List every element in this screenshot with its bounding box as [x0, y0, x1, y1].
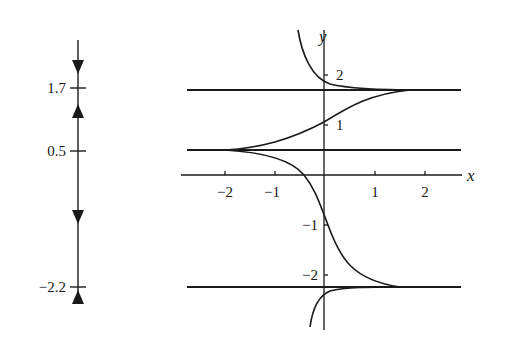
phase-line-and-solution-graph-figure: 1.7 0.5 −2.2 x y −2 −1 1 2 2 1 −1 −2	[0, 0, 506, 346]
graph-axes	[181, 30, 462, 330]
x-tick-label: −2	[217, 184, 233, 200]
x-tick-label: 1	[371, 184, 379, 200]
y-tick-label: 1	[336, 117, 344, 133]
phase-label-0.5: 0.5	[47, 143, 66, 159]
arrow-up-icon	[72, 104, 84, 118]
y-tick-label: −1	[302, 217, 318, 233]
solution-curves	[225, 30, 420, 327]
x-tick-label: −1	[264, 184, 280, 200]
phase-line	[70, 40, 86, 299]
figure-canvas: 1.7 0.5 −2.2 x y −2 −1 1 2 2 1 −1 −2	[0, 0, 506, 346]
y-axis-label: y	[317, 27, 327, 46]
arrow-up-icon	[72, 290, 84, 304]
phase-label-neg-2.2: −2.2	[39, 279, 66, 295]
phase-label-1.7: 1.7	[47, 80, 66, 96]
arrow-down-icon	[72, 210, 84, 224]
x-axis-label: x	[466, 166, 475, 185]
arrow-down-icon	[72, 60, 84, 74]
x-tick-label: 2	[421, 184, 429, 200]
solution-curve-above-1.7	[298, 30, 420, 90]
y-tick-label: −2	[302, 267, 318, 283]
solution-curve-between-0.5-1.7	[225, 90, 410, 150]
y-tick-label: 2	[336, 67, 344, 83]
